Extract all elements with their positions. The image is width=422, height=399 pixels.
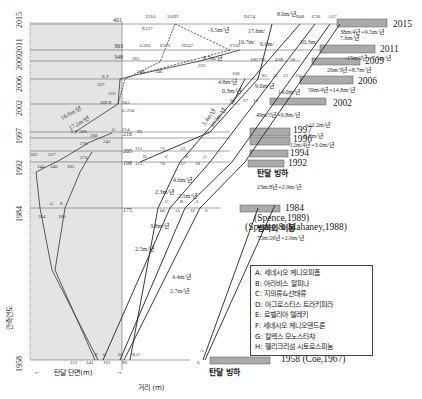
svg-text:A: A bbox=[203, 154, 207, 159]
svg-text:A17: A17 bbox=[328, 14, 337, 19]
svg-text:8.7m/년: 8.7m/년 bbox=[203, 54, 223, 61]
svg-text:348: 348 bbox=[114, 54, 123, 60]
svg-text:27: 27 bbox=[243, 98, 249, 103]
left-shaded-region bbox=[30, 22, 122, 360]
year-axis-labels: 2015 2011 2009 2006 2002 1997 1992 1984 … bbox=[15, 12, 24, 372]
svg-text:214: 214 bbox=[122, 127, 130, 132]
svg-text:1997: 1997 bbox=[15, 128, 24, 144]
svg-text:14.0m/년: 14.0m/년 bbox=[278, 88, 301, 95]
x-axis-label: 거리 (m) bbox=[138, 383, 165, 392]
svg-text:300: 300 bbox=[58, 214, 66, 219]
svg-text:C: C bbox=[165, 199, 169, 204]
svg-text:340: 340 bbox=[50, 164, 58, 169]
svg-text:59m/4년=14.8m/년: 59m/4년=14.8m/년 bbox=[308, 86, 356, 93]
svg-text:A: A bbox=[195, 199, 199, 204]
svg-text:362: 362 bbox=[30, 152, 38, 157]
svg-text:B: B bbox=[185, 154, 189, 159]
svg-text:38m/4년=9.5m/년: 38m/4년=9.5m/년 bbox=[340, 28, 385, 35]
svg-text:=12.2m/년: =12.2m/년 bbox=[305, 121, 331, 128]
svg-text:1984: 1984 bbox=[15, 206, 24, 222]
svg-text:337: 337 bbox=[97, 82, 105, 87]
svg-text:4.8m/년: 4.8m/년 bbox=[218, 78, 238, 85]
svg-text:100: 100 bbox=[232, 71, 240, 76]
svg-text:331G: 331G bbox=[145, 14, 157, 19]
svg-text:268: 268 bbox=[90, 133, 98, 138]
svg-text:35: 35 bbox=[273, 73, 279, 78]
svg-text:2006: 2006 bbox=[15, 76, 24, 92]
svg-text:310: 310 bbox=[108, 91, 116, 96]
svg-text:276: 276 bbox=[80, 141, 88, 146]
svg-text:93: 93 bbox=[137, 129, 143, 134]
svg-text:327: 327 bbox=[48, 152, 56, 157]
legend-item-a: A: 세네시오 케니오피폼 bbox=[255, 268, 368, 279]
svg-text:15: 15 bbox=[295, 73, 301, 78]
svg-text:2006: 2006 bbox=[358, 76, 377, 86]
svg-text:43B: 43B bbox=[275, 57, 284, 62]
svg-text:246: 246 bbox=[155, 69, 163, 74]
svg-text:2.3m/년: 2.3m/년 bbox=[155, 188, 175, 195]
svg-text:8.0m/년: 8.0m/년 bbox=[277, 10, 297, 17]
svg-text:269 E: 269 E bbox=[100, 100, 112, 105]
svg-text:4.6m/년: 4.6m/년 bbox=[173, 176, 193, 183]
svg-text:→: → bbox=[116, 368, 123, 376]
svg-text:E: E bbox=[60, 201, 63, 206]
svg-text:10.7m/: 10.7m/ bbox=[238, 39, 255, 45]
svg-text:7.6m/년: 7.6m/년 bbox=[340, 34, 360, 41]
svg-text:115: 115 bbox=[135, 161, 143, 166]
svg-text:75m/26년=2.9m/년: 75m/26년=2.9m/년 bbox=[257, 234, 305, 241]
svg-text:4.4m/년: 4.4m/년 bbox=[172, 273, 192, 280]
svg-text:115: 115 bbox=[135, 146, 143, 151]
svg-text:53: 53 bbox=[180, 146, 186, 151]
svg-text:12m/4년=3.0m/년: 12m/4년=3.0m/년 bbox=[290, 141, 335, 148]
svg-text:1984: 1984 bbox=[285, 203, 304, 213]
svg-text:23m/8년=2.9m/년: 23m/8년=2.9m/년 bbox=[257, 183, 302, 190]
svg-text:10.3m/: 10.3m/ bbox=[300, 39, 317, 45]
svg-text:79C: 79C bbox=[258, 57, 267, 62]
svg-text:1994: 1994 bbox=[290, 148, 309, 158]
svg-text:100: 100 bbox=[250, 57, 258, 62]
glacier-label-1958: 탄달 빙하 bbox=[209, 367, 241, 377]
svg-text:31: 31 bbox=[175, 208, 181, 213]
svg-text:198: 198 bbox=[123, 160, 132, 166]
svg-text:2.5m/년: 2.5m/년 bbox=[135, 245, 155, 252]
citation-2: (Spence & Mahaney,1988) bbox=[245, 222, 347, 233]
svg-text:2011: 2011 bbox=[380, 44, 399, 54]
legend-item-g: G: 칼렉스 모노스타챠 bbox=[255, 332, 368, 343]
svg-text:151: 151 bbox=[70, 360, 78, 365]
svg-text:274: 274 bbox=[80, 155, 88, 160]
svg-text:B48: B48 bbox=[296, 14, 305, 19]
svg-text:6: 6 bbox=[197, 360, 200, 365]
svg-text:60: 60 bbox=[230, 98, 236, 103]
svg-text:1992: 1992 bbox=[288, 158, 307, 168]
svg-text:37: 37 bbox=[180, 161, 186, 166]
svg-text:G282: G282 bbox=[140, 43, 152, 48]
svg-text:-3.5m/년: -3.5m/년 bbox=[208, 26, 230, 33]
svg-text:2002: 2002 bbox=[333, 98, 352, 108]
svg-text:12: 12 bbox=[253, 98, 259, 103]
svg-text:2002: 2002 bbox=[15, 100, 24, 116]
svg-text:175: 175 bbox=[123, 207, 132, 213]
svg-text:232: 232 bbox=[198, 63, 206, 68]
svg-text:304: 304 bbox=[38, 214, 46, 219]
svg-text:18: 18 bbox=[290, 57, 296, 62]
svg-text:1958: 1958 bbox=[15, 356, 24, 372]
svg-text:E337: E337 bbox=[142, 26, 153, 31]
svg-text:G: G bbox=[112, 127, 116, 132]
svg-text:8.8m/년: 8.8m/년 bbox=[304, 132, 324, 139]
y-axis-label: 관측연도 bbox=[5, 305, 14, 330]
svg-text:2011: 2011 bbox=[15, 38, 24, 54]
svg-text:90: 90 bbox=[122, 360, 128, 365]
legend-item-d: D: 아그로스티스 트라키피라 bbox=[255, 300, 368, 311]
svg-text:316H: 316H bbox=[167, 14, 179, 19]
svg-text:363: 363 bbox=[114, 43, 123, 49]
svg-text:75: 75 bbox=[160, 146, 166, 151]
svg-text:2015: 2015 bbox=[15, 12, 24, 28]
svg-text:12: 12 bbox=[190, 208, 196, 213]
svg-text:205: 205 bbox=[123, 148, 132, 154]
svg-text:3.8m/년: 3.8m/년 bbox=[150, 222, 170, 229]
svg-text:A: A bbox=[200, 348, 204, 353]
svg-text:49m/5년=9.8m/년: 49m/5년=9.8m/년 bbox=[256, 111, 301, 118]
svg-text:248: 248 bbox=[137, 69, 145, 74]
svg-text:70: 70 bbox=[160, 161, 166, 166]
svg-text:66: 66 bbox=[160, 208, 166, 213]
